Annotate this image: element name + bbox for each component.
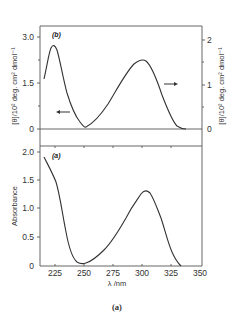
cd-left-tick-0: 0 (29, 124, 34, 134)
abs-panel-label: (a) (52, 152, 61, 160)
cd-right-tick-2: 2 (207, 35, 212, 45)
x-ticks (37, 146, 171, 266)
x-axis-label: λ /nm (108, 279, 126, 288)
left-arrow-icon (56, 110, 70, 114)
abs-ylabel: Absorbance (10, 186, 19, 226)
x-tick-300: 300 (135, 268, 149, 278)
absorbance-curve (44, 157, 181, 266)
absorbance-panel: 2.0 1.5 1.0 0.5 0 225 250 275 300 325 35… (10, 146, 207, 288)
x-tick-250: 250 (77, 268, 91, 278)
cd-curve (44, 46, 186, 129)
x-tick-325: 325 (164, 268, 178, 278)
cd-panel-label: (b) (52, 31, 62, 39)
abs-tick-1.5: 1.5 (22, 175, 34, 185)
figure-canvas: 3.0 1.5 0 2 1 0 (b) [θ]/10² deg. cm² dmo… (0, 0, 235, 322)
cd-panel: 3.0 1.5 0 2 1 0 (b) [θ]/10² deg. cm² dmo… (10, 26, 226, 146)
cd-left-tick-1.5: 1.5 (22, 78, 34, 88)
x-tick-225: 225 (48, 268, 62, 278)
cd-left-tick-3: 3.0 (22, 32, 34, 42)
abs-tick-0.5: 0.5 (22, 232, 34, 242)
x-tick-275: 275 (106, 268, 120, 278)
cd-right-tick-0: 0 (207, 124, 212, 134)
abs-tick-0: 0 (29, 261, 34, 271)
abs-tick-2.0: 2.0 (22, 147, 34, 157)
right-arrow-icon (164, 82, 178, 86)
cd-right-ylabel: [θ]/10² deg. cm² dmol⁻¹ (217, 47, 226, 125)
abs-tick-1.0: 1.0 (22, 203, 34, 213)
cd-left-ylabel: [θ]/10² deg. cm² dmol⁻¹ (10, 47, 19, 125)
x-tick-350: 350 (193, 268, 207, 278)
figure-caption: (a) (112, 302, 122, 312)
cd-right-tick-1: 1 (207, 80, 212, 90)
